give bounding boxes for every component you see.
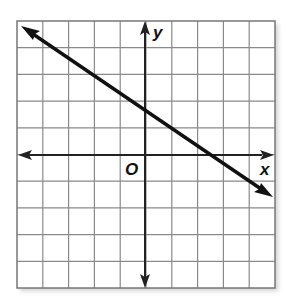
coordinate-graph: y x O: [0, 0, 289, 306]
x-axis-label: x: [259, 160, 271, 179]
y-axis-label: y: [152, 23, 164, 42]
origin-label: O: [125, 160, 138, 179]
